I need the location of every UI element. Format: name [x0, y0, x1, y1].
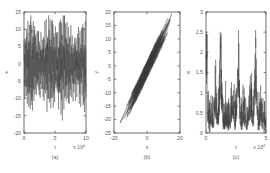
- subplot-caption: (c): [233, 154, 240, 160]
- y-tick-label: 5: [108, 49, 111, 55]
- x-tick-label: 0: [146, 135, 149, 141]
- x-tick-label: 0: [23, 135, 26, 141]
- y-tick-label: -15: [104, 103, 112, 109]
- subplot-b: -25-20-15-10-505101520-20020yx(b): [88, 0, 186, 173]
- x-axis-multiplier: x 104: [253, 144, 265, 150]
- y-tick-label: 3: [200, 9, 203, 15]
- x-tick-label: 5: [265, 135, 268, 141]
- subplot-b-data-layer: [120, 13, 172, 123]
- y-tick-label: 15: [105, 22, 111, 28]
- y-axis-label: e: [185, 71, 191, 74]
- y-tick-label: -10: [14, 95, 22, 101]
- y-tick-label: 0.5: [196, 110, 203, 116]
- x-tick-label: -20: [110, 135, 118, 141]
- y-axis-label: y: [93, 71, 99, 74]
- y-axis-label: x: [3, 71, 9, 74]
- x-axis-label: t: [54, 144, 56, 150]
- y-tick-label: 15: [15, 9, 21, 15]
- x-axis-multiplier-exponent: 4: [83, 144, 85, 148]
- subplot-caption: (a): [52, 154, 59, 160]
- x-tick-label: 0: [205, 135, 208, 141]
- time-series-trace: [24, 15, 86, 120]
- subplot-b-canvas: -25-20-15-10-505101520-20020yx(b): [88, 0, 186, 173]
- y-tick-label: 0: [18, 61, 21, 67]
- y-tick-label: 10: [105, 36, 111, 42]
- x-axis-multiplier: x 104: [73, 144, 85, 150]
- y-tick-label: -20: [14, 130, 22, 136]
- y-tick-label: 2.5: [196, 29, 203, 35]
- subplot-a-canvas: -20-15-10-50510150510xtx 104(a): [0, 0, 92, 173]
- y-tick-label: -20: [104, 116, 112, 122]
- y-tick-label: 10: [15, 26, 21, 32]
- x-tick-label: 5: [54, 135, 57, 141]
- subplot-c-data-layer: [206, 30, 266, 132]
- y-tick-label: -5: [106, 76, 111, 82]
- subplot-c: 00.511.522.5305etx 104(c): [182, 0, 270, 173]
- y-tick-label: -15: [14, 113, 22, 119]
- subplot-c-canvas: 00.511.522.5305etx 104(c): [182, 0, 270, 173]
- y-tick-label: -5: [16, 78, 21, 84]
- y-tick-label: 2: [200, 49, 203, 55]
- figure-panel-group: -20-15-10-50510150510xtx 104(a) -25-20-1…: [0, 0, 270, 173]
- y-tick-label: 1.5: [196, 69, 203, 75]
- x-axis-multiplier-exponent: 4: [263, 144, 265, 148]
- x-axis-label: x: [146, 144, 149, 150]
- y-tick-label: -10: [104, 90, 112, 96]
- y-tick-label: 20: [105, 9, 111, 15]
- error-signal-trace: [206, 30, 266, 132]
- subplot-caption: (b): [144, 154, 151, 160]
- subplot-a-data-layer: [24, 15, 86, 120]
- y-tick-label: 1: [200, 90, 203, 96]
- y-tick-label: 0: [108, 63, 111, 69]
- y-tick-label: 0: [200, 130, 203, 136]
- y-tick-label: 5: [18, 43, 21, 49]
- phase-portrait-trace: [120, 13, 172, 123]
- subplot-a: -20-15-10-50510150510xtx 104(a): [0, 0, 92, 173]
- x-axis-label: t: [235, 144, 237, 150]
